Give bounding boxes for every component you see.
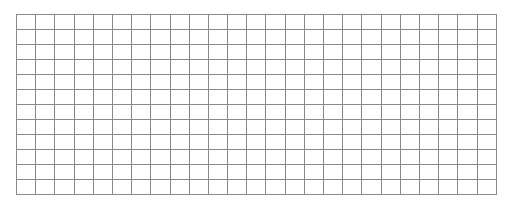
grid-cell [265, 149, 284, 164]
grid-cell [342, 44, 361, 59]
grid-cell [35, 44, 54, 59]
grid-cell [189, 89, 208, 104]
grid-cell [16, 14, 35, 29]
grid-cell [381, 149, 400, 164]
grid-cell [227, 14, 246, 29]
grid-cell [131, 89, 150, 104]
grid-cell [93, 59, 112, 74]
grid-cell [419, 104, 438, 119]
grid-cell [93, 164, 112, 179]
grid-cell [150, 119, 169, 134]
grid-cell [74, 119, 93, 134]
grid-cell [131, 179, 150, 194]
grid-cell [208, 14, 227, 29]
grid-cell [457, 14, 476, 29]
grid-cell [93, 29, 112, 44]
grid-cell [35, 119, 54, 134]
grid-cell [74, 134, 93, 149]
grid-cell [381, 179, 400, 194]
grid-cell [16, 89, 35, 104]
grid-cell [304, 164, 323, 179]
grid-cell [381, 164, 400, 179]
grid-cell [227, 89, 246, 104]
grid-cell [227, 179, 246, 194]
grid-cell [361, 29, 380, 44]
grid-cell [112, 149, 131, 164]
grid-cell [189, 119, 208, 134]
grid-cell [131, 164, 150, 179]
grid-cell [457, 134, 476, 149]
grid-cell [477, 14, 496, 29]
grid-cell [208, 164, 227, 179]
grid-cell [477, 134, 496, 149]
grid-cell [93, 89, 112, 104]
grid-cell [304, 104, 323, 119]
grid-cell [400, 119, 419, 134]
grid-cell [112, 14, 131, 29]
grid-cell [438, 44, 457, 59]
grid-cell [265, 44, 284, 59]
grid-cell [74, 179, 93, 194]
grid-cell [400, 74, 419, 89]
grid-cell [74, 29, 93, 44]
grid-cell [361, 164, 380, 179]
grid-cell [400, 164, 419, 179]
grid-cell [400, 29, 419, 44]
grid-cell [74, 164, 93, 179]
grid-cell [361, 119, 380, 134]
grid-cell [16, 149, 35, 164]
grid-cell [208, 134, 227, 149]
grid-cell [170, 59, 189, 74]
grid-cell [342, 89, 361, 104]
grid-cell [170, 29, 189, 44]
grid-cell [265, 164, 284, 179]
grid-cell [227, 29, 246, 44]
grid-cell [189, 134, 208, 149]
grid-cell [131, 59, 150, 74]
grid-cell [361, 179, 380, 194]
grid-cell [457, 179, 476, 194]
grid-cell [93, 104, 112, 119]
grid-cell [227, 119, 246, 134]
grid-cell [150, 179, 169, 194]
grid-cell [131, 74, 150, 89]
grid-cell [477, 104, 496, 119]
grid-cell [54, 104, 73, 119]
grid-cell [477, 74, 496, 89]
grid-cell [381, 74, 400, 89]
grid-cell [227, 164, 246, 179]
grid-cell [16, 29, 35, 44]
grid-cell [16, 134, 35, 149]
grid-cell [438, 104, 457, 119]
grid-cell [131, 29, 150, 44]
grid-cell [381, 44, 400, 59]
grid-cell [112, 179, 131, 194]
grid-cell [246, 179, 265, 194]
grid-cell [93, 149, 112, 164]
grid-cell [342, 14, 361, 29]
grid-cell [150, 164, 169, 179]
grid-cell [438, 134, 457, 149]
grid-cell [189, 44, 208, 59]
grid-cell [189, 149, 208, 164]
grid-cell [189, 59, 208, 74]
grid-cell [323, 44, 342, 59]
grid-cell [93, 74, 112, 89]
grid-cell [54, 134, 73, 149]
grid-cell [16, 119, 35, 134]
grid-cell [265, 14, 284, 29]
grid-cell [419, 29, 438, 44]
grid-cell [265, 74, 284, 89]
grid-cell [170, 179, 189, 194]
grid-cell [304, 179, 323, 194]
grid-cell [150, 44, 169, 59]
grid-cell [342, 179, 361, 194]
grid-cell [227, 104, 246, 119]
grid-cell [285, 14, 304, 29]
grid-cell [342, 104, 361, 119]
grid-cell [170, 74, 189, 89]
empty-grid [16, 14, 497, 195]
grid-cell [246, 164, 265, 179]
grid-cell [265, 59, 284, 74]
grid-cell [285, 74, 304, 89]
